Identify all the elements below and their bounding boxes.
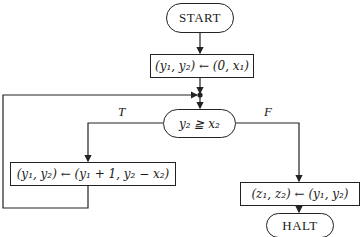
init-label: (y₁, y₂) ← (0, x₁) <box>155 59 249 73</box>
start-label: START <box>179 10 221 26</box>
halt-label: HALT <box>282 218 317 234</box>
junction-dot <box>197 92 202 97</box>
halt-node: HALT <box>266 213 334 237</box>
output-label: (z₁, z₂) ← (y₁, y₂) <box>251 187 348 201</box>
init-assignment-box: (y₁, y₂) ← (0, x₁) <box>150 54 254 78</box>
decision-label: y₂ ≧ x₂ <box>179 117 220 131</box>
false-branch-label: F <box>264 104 272 120</box>
loop-body-box: (y₁, y₂) ← (y₁ + 1, y₂ − x₂) <box>10 162 176 186</box>
true-branch-label: T <box>118 104 125 120</box>
decision-node: y₂ ≧ x₂ <box>163 109 236 138</box>
start-node: START <box>166 3 234 33</box>
loop-body-label: (y₁, y₂) ← (y₁ + 1, y₂ − x₂) <box>17 167 170 181</box>
output-assignment-box: (z₁, z₂) ← (y₁, y₂) <box>240 182 360 206</box>
